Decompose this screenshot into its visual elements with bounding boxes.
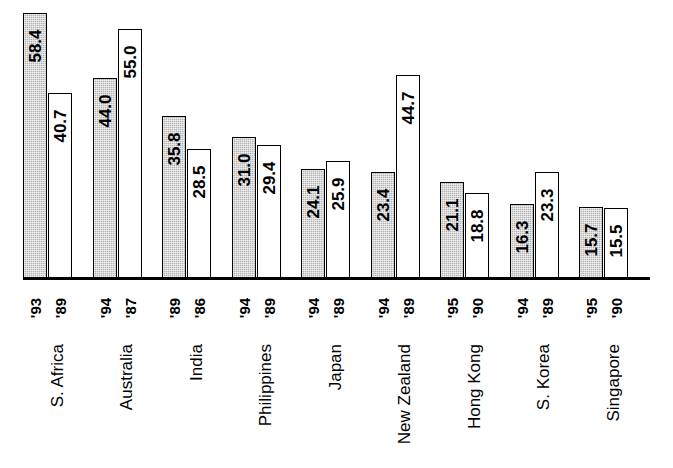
bar-value-label: 55.0 — [119, 32, 142, 92]
bar-value-label: 23.4 — [372, 175, 395, 235]
category-label: Philippines — [232, 336, 281, 462]
year-label-group: '94'87 — [93, 282, 142, 334]
year-label: '87 — [118, 282, 142, 334]
bar-group: 31.029.4 — [232, 10, 281, 278]
category-label: S. Korea — [510, 336, 559, 462]
bar-value-label: 40.7 — [49, 96, 72, 156]
bar-group: 16.323.3 — [510, 10, 559, 278]
year-label: '89 — [396, 282, 420, 334]
category-label: Australia — [93, 336, 142, 462]
category-label: Japan — [301, 336, 350, 462]
bar-white[interactable]: 29.4 — [257, 145, 281, 278]
year-label: '95 — [440, 282, 464, 334]
bar-white[interactable]: 44.7 — [396, 75, 420, 278]
year-label-group: '94'89 — [371, 282, 420, 334]
year-label-group: '93'89 — [23, 282, 72, 334]
bar-group: 44.055.0 — [93, 10, 142, 278]
bar-group: 58.440.7 — [23, 10, 72, 278]
bar-gray[interactable]: 16.3 — [510, 204, 534, 278]
bar-value-label: 58.4 — [24, 16, 47, 76]
bar-gray[interactable]: 23.4 — [371, 172, 395, 278]
bar-gray[interactable]: 44.0 — [93, 78, 117, 278]
year-label: '89 — [162, 282, 186, 334]
bar-white[interactable]: 23.3 — [535, 172, 559, 278]
category-label: Singapore — [579, 336, 628, 462]
year-label: '90 — [465, 282, 489, 334]
bar-value-label: 23.3 — [536, 175, 559, 235]
plot-area: 58.440.744.055.035.828.531.029.424.125.9… — [23, 10, 650, 278]
bar-gray[interactable]: 35.8 — [162, 116, 186, 278]
country-label-row: S. AfricaAustraliaIndiaPhilippinesJapanN… — [23, 336, 650, 462]
bar-gray[interactable]: 31.0 — [232, 137, 256, 278]
bar-white[interactable]: 18.8 — [465, 193, 489, 278]
category-label: Hong Kong — [440, 336, 489, 462]
year-label: '94 — [371, 282, 395, 334]
bar-gray[interactable]: 15.7 — [579, 207, 603, 278]
bar-value-label: 24.1 — [302, 172, 325, 232]
bar-group: 23.444.7 — [371, 10, 420, 278]
bar-value-label: 28.5 — [188, 152, 211, 212]
bar-value-label: 29.4 — [258, 148, 281, 208]
bar-value-label: 44.7 — [397, 78, 420, 138]
year-label: '89 — [326, 282, 350, 334]
x-axis-line — [23, 277, 650, 280]
year-label: '94 — [93, 282, 117, 334]
year-label: '86 — [187, 282, 211, 334]
year-label: '89 — [535, 282, 559, 334]
bar-gray[interactable]: 21.1 — [440, 182, 464, 278]
bar-value-label: 31.0 — [233, 140, 256, 200]
year-label: '94 — [232, 282, 256, 334]
year-label: '95 — [579, 282, 603, 334]
year-label-group: '94'89 — [510, 282, 559, 334]
bar-value-label: 21.1 — [441, 185, 464, 245]
bar-group: 24.125.9 — [301, 10, 350, 278]
bar-group: 15.715.5 — [579, 10, 628, 278]
year-label-group: '89'86 — [162, 282, 211, 334]
year-label: '93 — [23, 282, 47, 334]
bar-white[interactable]: 55.0 — [118, 29, 142, 278]
bar-value-label: 44.0 — [94, 81, 117, 141]
category-label: S. Africa — [23, 336, 72, 462]
bar-white[interactable]: 40.7 — [48, 93, 72, 278]
year-label: '94 — [301, 282, 325, 334]
bar-group: 35.828.5 — [162, 10, 211, 278]
bar-gray[interactable]: 24.1 — [301, 169, 325, 278]
bar-group: 21.118.8 — [440, 10, 489, 278]
year-label: '90 — [604, 282, 628, 334]
year-label: '89 — [257, 282, 281, 334]
bar-chart: 58.440.744.055.035.828.531.029.424.125.9… — [0, 0, 673, 468]
year-label: '94 — [510, 282, 534, 334]
bar-value-label: 18.8 — [466, 196, 489, 256]
year-label-group: '94'89 — [232, 282, 281, 334]
year-label-group: '94'89 — [301, 282, 350, 334]
bar-value-label: 25.9 — [327, 164, 350, 224]
category-label: New Zealand — [371, 336, 420, 462]
bar-white[interactable]: 25.9 — [326, 161, 350, 278]
year-label-group: '95'90 — [579, 282, 628, 334]
bar-white[interactable]: 15.5 — [604, 208, 628, 278]
bar-white[interactable]: 28.5 — [187, 149, 211, 278]
bar-gray[interactable]: 58.4 — [23, 13, 47, 278]
bar-value-label: 15.5 — [605, 211, 628, 271]
year-label-row: '93'89'94'87'89'86'94'89'94'89'94'89'95'… — [23, 282, 650, 334]
bar-value-label: 35.8 — [163, 119, 186, 179]
year-label-group: '95'90 — [440, 282, 489, 334]
bar-value-label: 15.7 — [580, 210, 603, 270]
bar-value-label: 16.3 — [511, 207, 534, 267]
year-label: '89 — [48, 282, 72, 334]
category-label: India — [162, 336, 211, 462]
